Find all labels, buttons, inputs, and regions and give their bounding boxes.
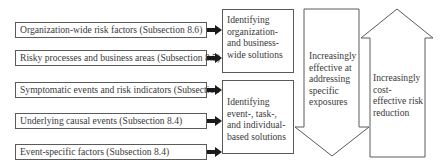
factor-label: Risky processes and business areas (Subs… xyxy=(20,52,220,63)
arrow-right-icon xyxy=(207,147,223,157)
up-arrow-label: Increasingly cost-effective risk reducti… xyxy=(373,72,425,118)
arrow-right-icon xyxy=(207,25,223,35)
factor-box-symptomatic-events: Symptomatic events and risk indicators (… xyxy=(15,82,207,98)
factor-box-underlying-causal: Underlying causal events (Subsection 8.4… xyxy=(15,113,207,129)
factor-box-event-specific: Event-specific factors (Subsection 8.4) xyxy=(15,144,207,160)
solution-box-organization-wide: Identifying organization- and business-w… xyxy=(222,9,294,73)
arrow-right-icon xyxy=(207,53,223,63)
arrow-right-icon xyxy=(207,116,223,126)
down-arrow-label: Increasingly effective at addressing spe… xyxy=(309,50,361,108)
solution-box-event-based: Identifying event-, task-, and individua… xyxy=(222,80,294,154)
factor-label: Organization-wide risk factors (Subsecti… xyxy=(20,24,202,35)
solution-label: Identifying event-, task-, and individua… xyxy=(227,96,286,142)
factor-label: Event-specific factors (Subsection 8.4) xyxy=(20,146,169,157)
factor-label: Underlying causal events (Subsection 8.4… xyxy=(20,115,182,126)
arrow-right-icon xyxy=(207,85,223,95)
solution-label: Identifying organization- and business-w… xyxy=(227,14,283,60)
factor-box-organization-wide: Organization-wide risk factors (Subsecti… xyxy=(15,22,207,38)
factor-box-risky-processes: Risky processes and business areas (Subs… xyxy=(15,50,207,66)
factor-label: Symptomatic events and risk indicators (… xyxy=(20,84,237,95)
